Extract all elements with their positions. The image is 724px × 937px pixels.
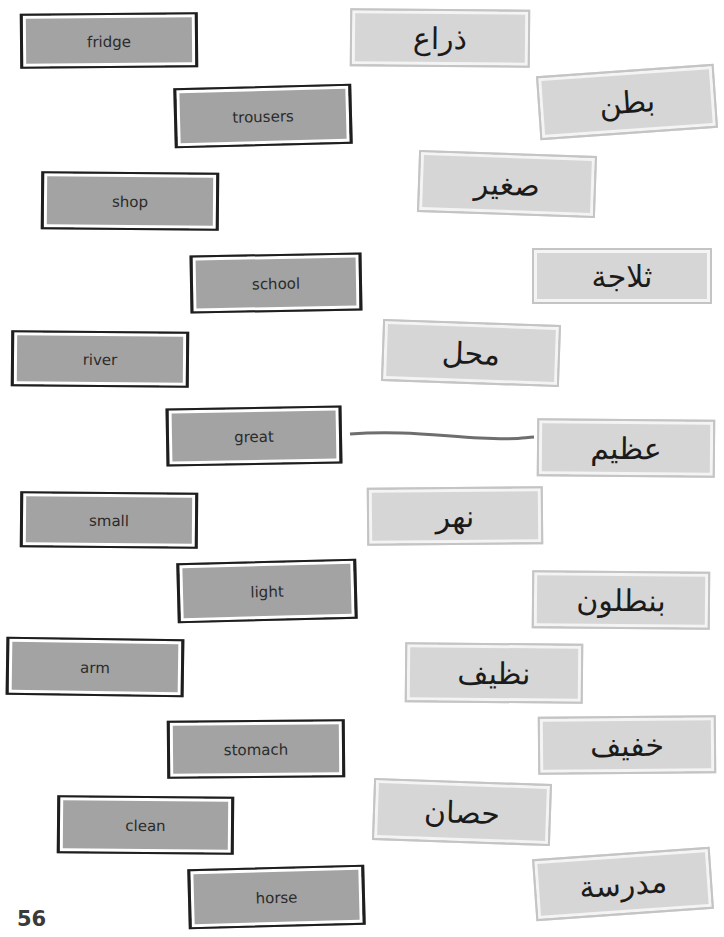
card-label: horse (255, 886, 297, 907)
card-label: stomach (224, 739, 289, 760)
card-label: light (250, 581, 284, 602)
english-card-great[interactable]: great (166, 405, 343, 466)
english-card-clean[interactable]: clean (57, 795, 234, 855)
arabic-card-dhira[interactable]: ذراع (350, 8, 530, 68)
english-card-river[interactable]: river (11, 330, 189, 388)
arabic-card-madrasa[interactable]: مدرسة (532, 847, 714, 921)
card-label: shop (112, 191, 148, 211)
english-card-horse[interactable]: horse (187, 865, 366, 930)
arabic-card-bantalun[interactable]: بنطلون (532, 570, 710, 630)
english-card-trousers[interactable]: trousers (173, 84, 353, 149)
english-card-fridge[interactable]: fridge (20, 12, 198, 69)
arabic-card-hisan[interactable]: حصان (372, 778, 552, 846)
arabic-card-saghir[interactable]: صغير (417, 150, 597, 218)
card-label: بطن (598, 83, 656, 122)
arabic-card-nahr[interactable]: نهر (367, 486, 543, 546)
card-label: صغير (474, 165, 541, 202)
card-label: arm (80, 657, 110, 677)
card-label: مدرسة (578, 863, 668, 904)
page-number: 56 (17, 907, 46, 931)
english-card-small[interactable]: small (20, 491, 198, 549)
arabic-card-thallaja[interactable]: ثلاجة (532, 248, 712, 304)
english-card-arm[interactable]: arm (6, 637, 185, 697)
card-label: trousers (232, 105, 294, 127)
card-label: ثلاجة (592, 259, 653, 294)
arabic-card-azim[interactable]: عظيم (537, 418, 715, 478)
card-label: حصان (424, 793, 501, 831)
card-label: خفيف (590, 727, 664, 763)
card-label: great (234, 426, 274, 447)
arabic-card-khafif[interactable]: خفيف (538, 715, 716, 775)
card-label: school (252, 273, 300, 294)
english-card-shop[interactable]: shop (41, 171, 219, 231)
card-label: small (89, 510, 129, 530)
card-label: ذراع (413, 20, 467, 55)
english-card-light[interactable]: light (176, 559, 358, 624)
arabic-card-nazif[interactable]: نظيف (405, 642, 584, 704)
english-card-stomach[interactable]: stomach (167, 719, 345, 779)
english-card-school[interactable]: school (190, 253, 363, 314)
arabic-card-batn[interactable]: بطن (536, 64, 718, 140)
card-label: نهر (435, 498, 474, 533)
card-label: محل (441, 334, 500, 371)
card-label: river (83, 349, 118, 369)
card-label: fridge (87, 30, 131, 50)
arabic-card-mahall[interactable]: محل (381, 319, 561, 387)
card-label: نظيف (457, 655, 530, 691)
card-label: عظيم (590, 430, 662, 466)
card-label: clean (125, 815, 166, 835)
card-label: بنطلون (576, 582, 666, 618)
